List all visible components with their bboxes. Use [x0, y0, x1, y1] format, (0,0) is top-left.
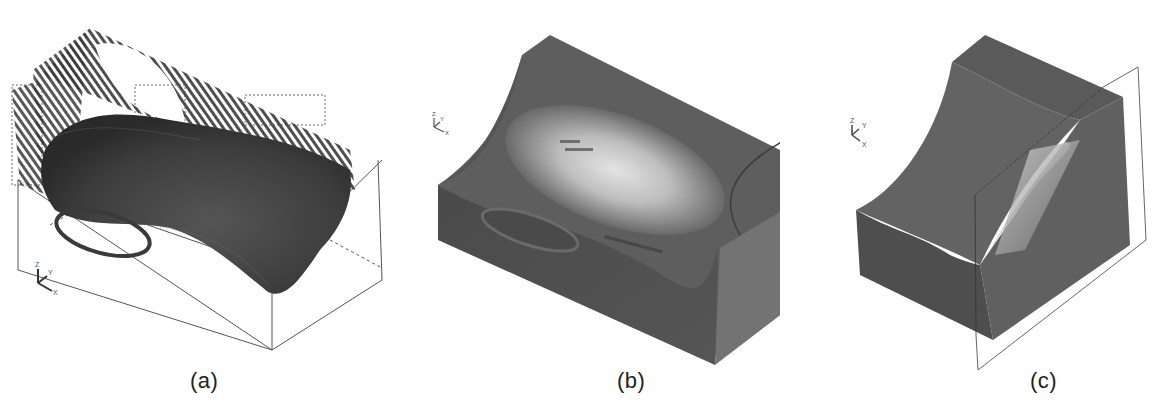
svg-text:Z: Z — [850, 117, 855, 124]
svg-text:Z: Z — [35, 261, 40, 268]
svg-text:X: X — [862, 141, 867, 148]
svg-text:Y: Y — [440, 116, 444, 122]
svg-text:X: X — [53, 289, 58, 296]
axis-triad-icon: Z Y X — [432, 111, 449, 136]
svg-text:X: X — [445, 130, 449, 136]
caption-b: (b) — [617, 368, 645, 394]
svg-text:Y: Y — [48, 269, 53, 276]
caption-a: (a) — [190, 368, 218, 394]
panel-a: Z Y X (a) — [0, 0, 400, 415]
section-plane-render: Z Y X — [780, 0, 1168, 415]
svg-text:Z: Z — [432, 111, 436, 117]
shaded-pocket-render: Z Y X — [400, 0, 780, 415]
svg-text:Y: Y — [862, 122, 867, 129]
panel-c: Z Y X (c) — [780, 0, 1168, 415]
axis-triad-icon: Z Y X — [850, 117, 867, 148]
panel-b: Z Y X (b) — [400, 0, 780, 415]
wireframe-cavity-render: Z Y X — [0, 0, 400, 415]
caption-c: (c) — [1030, 368, 1057, 394]
